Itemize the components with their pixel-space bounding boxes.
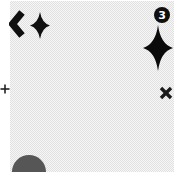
- back-chevron-stroke: [13, 13, 23, 36]
- screenshot-canvas: 3: [0, 0, 180, 177]
- small-sparkle-icon: [30, 12, 50, 39]
- small-sparkle-shape: [30, 12, 50, 39]
- plus-icon[interactable]: [0, 84, 10, 94]
- back-chevron-icon[interactable]: [9, 9, 25, 39]
- count-badge: 3: [154, 7, 170, 23]
- plus-strokes: [1, 85, 10, 94]
- large-sparkle-shape: [143, 25, 173, 71]
- close-x-icon[interactable]: [159, 86, 173, 100]
- large-sparkle-icon: [143, 25, 173, 71]
- close-x-strokes: [161, 88, 171, 98]
- count-badge-number: 3: [158, 10, 166, 21]
